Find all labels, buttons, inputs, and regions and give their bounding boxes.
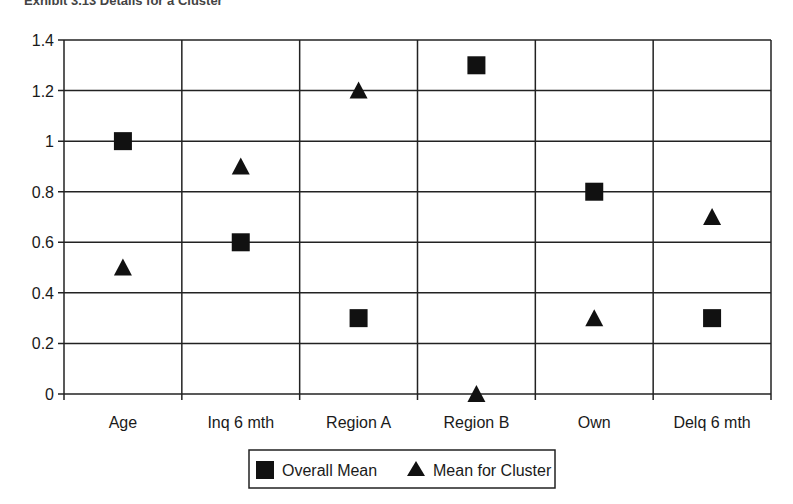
y-axis-ticks: 00.20.40.60.811.21.4 xyxy=(32,32,54,403)
x-tick-label: Region A xyxy=(326,414,391,431)
cluster-mean-triangle-marker xyxy=(114,259,132,276)
y-tick-label: 1.4 xyxy=(32,32,54,49)
overall-mean-square-marker xyxy=(467,56,485,74)
x-axis-labels: AgeInq 6 mthRegion ARegion BOwnDelq 6 mt… xyxy=(109,414,751,431)
overall-mean-square-marker xyxy=(585,183,603,201)
y-tick-label: 1.2 xyxy=(32,83,54,100)
y-tick-label: 0.4 xyxy=(32,285,54,302)
legend-label-mean-for-cluster: Mean for Cluster xyxy=(433,462,552,479)
y-tick-label: 1 xyxy=(45,133,54,150)
legend: Overall Mean Mean for Cluster xyxy=(249,450,555,488)
x-tick-label: Inq 6 mth xyxy=(207,414,274,431)
overall-mean-square-marker xyxy=(232,233,250,251)
y-tick-label: 0 xyxy=(45,386,54,403)
cluster-mean-triangle-marker xyxy=(585,309,603,326)
overall-mean-square-marker xyxy=(350,309,368,327)
overall-mean-square-marker xyxy=(114,132,132,150)
legend-square-icon xyxy=(256,461,274,479)
cluster-mean-triangle-marker xyxy=(703,208,721,225)
x-tick-label: Age xyxy=(109,414,138,431)
cluster-mean-triangle-marker xyxy=(232,157,250,174)
x-tick-label: Region B xyxy=(444,414,510,431)
x-tick-label: Delq 6 mth xyxy=(673,414,750,431)
overall-mean-square-marker xyxy=(703,309,721,327)
scatter-chart: 00.20.40.60.811.21.4 AgeInq 6 mthRegion … xyxy=(0,0,793,504)
y-tick-label: 0.6 xyxy=(32,234,54,251)
x-tick-label: Own xyxy=(578,414,611,431)
y-tick-label: 0.2 xyxy=(32,335,54,352)
grid-lines xyxy=(58,40,771,400)
legend-label-overall-mean: Overall Mean xyxy=(282,462,377,479)
y-tick-label: 0.8 xyxy=(32,184,54,201)
